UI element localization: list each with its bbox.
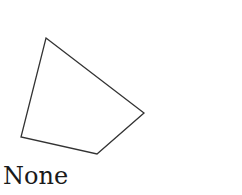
caption-label: None bbox=[3, 160, 68, 192]
quadrilateral-shape bbox=[21, 38, 144, 154]
quadrilateral-figure bbox=[0, 0, 242, 160]
